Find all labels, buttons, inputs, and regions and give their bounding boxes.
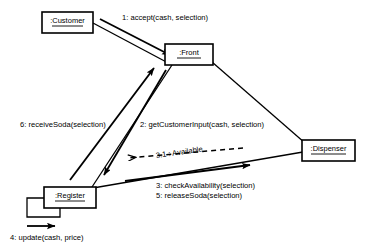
message-label-1-accept: 1: accept(cash, selection) (122, 13, 209, 22)
message-arrow-1-accept (100, 19, 170, 55)
object-label-dispenser: :Dispenser (311, 144, 347, 153)
message-label-2-getcustomerinput: 2: getCustomerInput(cash, selection) (140, 120, 265, 129)
message-arrow-3-5-dispenser (125, 165, 250, 181)
object-node-register[interactable]: :Register (44, 187, 96, 208)
object-node-customer[interactable]: :Customer (42, 12, 93, 33)
message-label-3-checkavailability: 3: checkAvailability(selection) (156, 181, 256, 190)
object-label-register: :Register (55, 191, 86, 200)
uml-collaboration-diagram: :Customer :Front :Dispenser :Register 1:… (0, 0, 370, 249)
message-label-3-1-available: 3.1 : Available (155, 144, 203, 159)
message-label-5-releasesoda: 5: releaseSoda(selection) (156, 191, 243, 200)
message-label-6-receivesoda: 6: receiveSoda(selection) (20, 120, 106, 129)
association-front-dispenser (212, 62, 305, 143)
association-customer-front (93, 23, 172, 65)
object-node-front[interactable]: :Front (165, 44, 213, 65)
diagram-canvas: :Customer :Front :Dispenser :Register 1:… (0, 0, 370, 249)
message-label-4-update: 4: update(cash, price) (10, 233, 84, 242)
object-node-dispenser[interactable]: :Dispenser (302, 140, 355, 161)
object-label-customer: :Customer (50, 16, 85, 25)
object-label-front: :Front (179, 48, 200, 57)
